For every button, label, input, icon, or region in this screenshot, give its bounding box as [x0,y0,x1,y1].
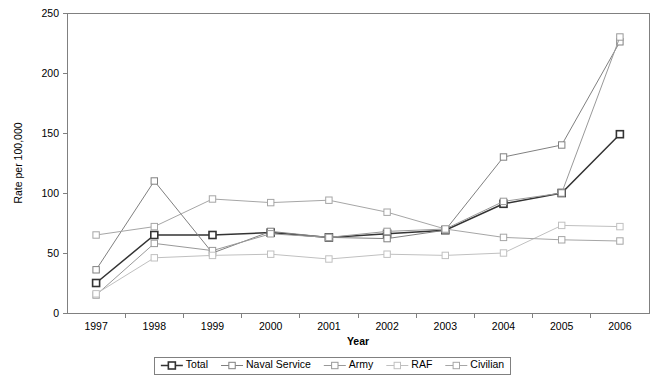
series-line [96,134,620,283]
x-tick-label: 2003 [434,320,458,332]
data-point-marker [209,252,215,258]
data-point-marker [268,199,274,205]
data-point-marker [500,234,506,240]
x-tick-label: 2000 [259,320,283,332]
legend-marker [453,362,459,368]
y-tick-label: 200 [41,67,59,79]
legend-marker [394,362,400,368]
data-point-marker [500,154,506,160]
data-point-marker [500,198,506,204]
x-tick-label: 2005 [550,320,574,332]
data-point-marker [616,131,623,138]
x-tick-label: 1999 [201,320,225,332]
data-point-marker [559,142,565,148]
chart-legend: TotalNaval ServiceArmyRAFCivilian [155,357,510,374]
data-point-marker [617,223,623,229]
data-point-marker [559,222,565,228]
legend-marker [168,362,175,369]
chart-axes: 0501001502002501997199819992000200120022… [12,7,649,347]
data-point-marker [93,267,99,273]
y-tick-label: 250 [41,7,59,19]
data-point-marker [268,251,274,257]
data-point-marker [617,34,623,40]
legend-label: RAF [411,358,432,370]
x-tick-label: 1997 [84,320,108,332]
data-point-marker [384,235,390,241]
data-point-marker [209,196,215,202]
data-point-marker [151,178,157,184]
data-point-marker [209,232,216,239]
series-total [93,131,624,287]
data-point-marker [268,231,274,237]
y-tick-label: 50 [47,247,59,259]
x-tick-label: 2002 [375,320,399,332]
data-point-marker [151,240,157,246]
y-axis-title: Rate per 100,000 [12,122,24,203]
chart-series-layer [93,34,624,298]
data-point-marker [617,238,623,244]
data-point-marker [151,232,158,239]
data-point-marker [151,223,157,229]
legend-label: Total [186,358,208,370]
data-point-marker [442,226,448,232]
y-tick-label: 0 [53,307,59,319]
data-point-marker [93,291,99,297]
x-tick-label: 2006 [608,320,632,332]
data-point-marker [326,197,332,203]
legend-marker [229,362,235,368]
data-point-marker [93,280,100,287]
legend-label: Army [349,358,374,370]
data-point-marker [384,251,390,257]
series-army [93,34,623,298]
data-point-marker [500,250,506,256]
data-point-marker [326,234,332,240]
y-tick-label: 100 [41,187,59,199]
x-tick-label: 2001 [317,320,341,332]
series-raf [93,222,623,297]
y-tick-label: 150 [41,127,59,139]
line-chart-panel: 0501001502002501997199819992000200120022… [0,0,665,381]
legend-marker [332,362,338,368]
data-point-marker [384,209,390,215]
legend-label: Naval Service [246,358,311,370]
data-point-marker [93,232,99,238]
data-point-marker [442,252,448,258]
chart-svg: 0501001502002501997199819992000200120022… [0,0,665,381]
x-axis-title: Year [347,335,369,347]
data-point-marker [559,190,565,196]
plot-frame [67,13,649,313]
x-tick-label: 2004 [492,320,516,332]
x-tick-label: 1998 [143,320,167,332]
legend-label: Civilian [470,358,504,370]
series-naval-service [93,39,623,273]
data-point-marker [384,228,390,234]
data-point-marker [151,255,157,261]
data-point-marker [326,256,332,262]
data-point-marker [559,237,565,243]
